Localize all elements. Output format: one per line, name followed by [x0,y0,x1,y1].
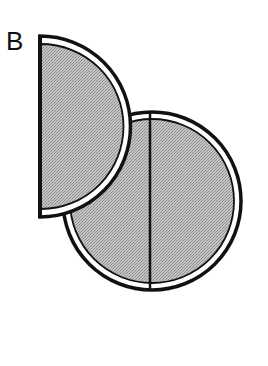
disc-diagram [0,0,268,366]
